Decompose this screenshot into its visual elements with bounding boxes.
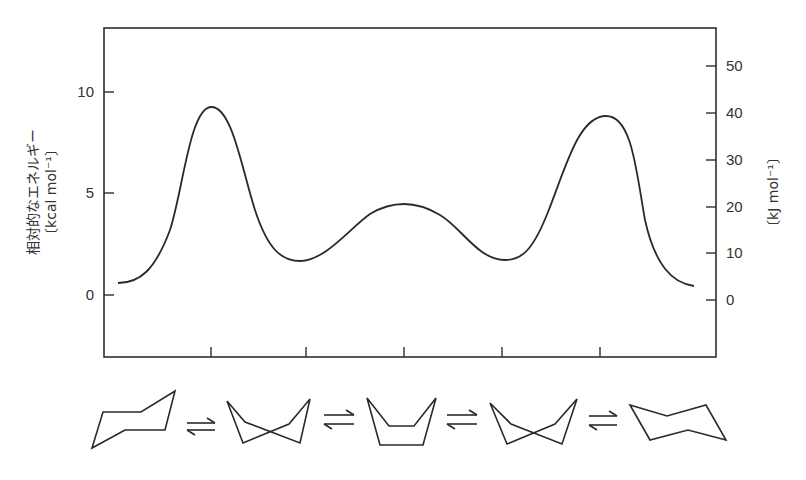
right-tick-label: 40 [726,104,743,121]
energy-curve [118,107,694,286]
left-tick-label: 0 [86,286,94,303]
chair-conformation [630,405,726,440]
left-tick-label: 10 [77,83,94,100]
right-tick-label: 50 [726,57,743,74]
plot-frame [104,28,716,357]
left-tick-label: 5 [86,184,94,201]
left-axis-title: 相対的なエネルギー [25,129,41,255]
right-axis: 50 40 30 20 10 0 [706,57,743,308]
right-tick-label: 10 [726,244,743,261]
right-tick-label: 0 [726,291,734,308]
right-tick-label: 20 [726,198,743,215]
right-tick-label: 30 [726,151,743,168]
equilibrium-arrow [589,411,617,430]
energy-diagram: 10 5 0 相対的なエネルギー 〔kcal mol⁻¹〕 50 40 30 2… [0,0,806,480]
right-axis-unit: 〔kJ mol⁻¹〕 [765,150,781,234]
twist-boat-conformation [227,399,310,443]
x-axis-ticks [211,347,600,357]
twist-boat-conformation [490,399,577,444]
conformation-row [92,391,726,448]
boat-conformation [367,398,436,445]
equilibrium-arrow [324,410,354,429]
left-axis-unit: 〔kcal mol⁻¹〕 [43,142,59,242]
equilibrium-arrow [187,418,215,435]
equilibrium-arrow [447,410,477,429]
left-axis: 10 5 0 [77,83,114,303]
chair-conformation [92,391,175,448]
